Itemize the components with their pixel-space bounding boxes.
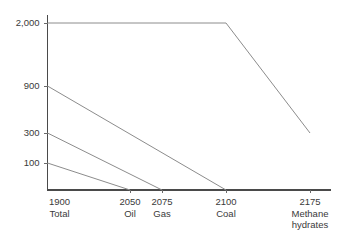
x-axis-category-label: Total — [49, 208, 69, 219]
line-chart: 2,000900300100 1900Total2050Oil2075Gas21… — [0, 0, 339, 242]
x-axis-year-label: 2175 — [299, 196, 320, 207]
y-axis-tick-label: 900 — [24, 80, 40, 91]
x-axis-year-label: 2050 — [119, 196, 140, 207]
series-line-coal — [48, 86, 227, 190]
axes-group — [48, 15, 332, 190]
chart-axes — [48, 15, 332, 190]
y-axis-tick-label: 2,000 — [16, 17, 40, 28]
x-axis-year-label: 2100 — [215, 196, 236, 207]
x-axis-label-group: 1900Total2050Oil2075Gas2100Coal2175Metha… — [49, 196, 329, 230]
x-axis-year-label: 1900 — [49, 196, 70, 207]
y-axis-tick-label: 100 — [24, 157, 40, 168]
x-axis-category-label: Methane — [292, 208, 329, 219]
series-line-oil — [48, 163, 131, 190]
y-axis-label-group: 2,000900300100 — [16, 17, 40, 168]
y-axis-tick-label: 300 — [24, 127, 40, 138]
x-axis-category-label: Gas — [153, 208, 171, 219]
x-axis-year-label: 2075 — [151, 196, 172, 207]
x-axis-category-label: Oil — [124, 208, 136, 219]
series-line-total — [48, 23, 311, 133]
series-group — [48, 23, 311, 190]
x-axis-category-label: hydrates — [292, 219, 329, 230]
y-axis-tick-group — [44, 23, 48, 163]
chart-container: 2,000900300100 1900Total2050Oil2075Gas21… — [0, 0, 339, 242]
x-axis-category-label: Coal — [216, 208, 236, 219]
